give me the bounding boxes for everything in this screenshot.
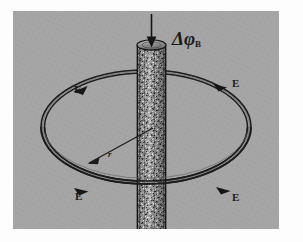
field-label-bottom-left: E	[75, 191, 82, 202]
flux-subscript: B	[195, 39, 201, 49]
flux-symbol: Δφ	[172, 28, 195, 49]
flux-label: ΔφB	[172, 29, 201, 49]
field-label-top-right: E	[232, 78, 239, 89]
radius-label: r	[108, 150, 112, 159]
field-label-top-left: E	[74, 84, 81, 95]
field-label-bottom-right: E	[232, 192, 239, 203]
figure-root: ΔφB E E E E r	[0, 0, 303, 242]
figure-panel: ΔφB E E E E r	[13, 11, 279, 229]
